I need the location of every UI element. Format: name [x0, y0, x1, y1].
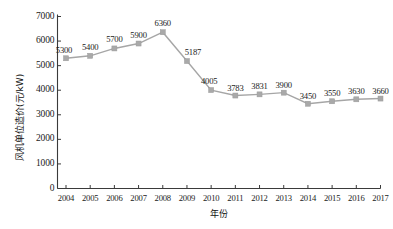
- data-point-marker: [354, 97, 359, 102]
- y-tick-label: 6000: [36, 35, 55, 45]
- y-axis-title: 风机单位造价(元/kW): [13, 73, 26, 160]
- data-point-marker: [233, 93, 238, 98]
- y-tick-label: 0: [50, 183, 55, 193]
- y-tick-label: 1000: [36, 158, 55, 168]
- data-point-marker: [184, 59, 189, 64]
- y-tick-label: 2000: [36, 133, 55, 143]
- data-point-marker: [88, 53, 93, 58]
- data-point-marker: [136, 41, 141, 46]
- data-point-marker: [281, 90, 286, 95]
- data-point-value-label: 5187: [179, 47, 207, 57]
- data-point-value-label: 6360: [149, 18, 177, 28]
- data-point-marker: [257, 92, 262, 97]
- x-axis-title: 年份: [179, 207, 259, 220]
- data-point-value-label: 3660: [367, 86, 393, 96]
- data-point-marker: [160, 30, 165, 35]
- data-point-marker: [330, 99, 335, 104]
- data-point-marker: [112, 46, 117, 51]
- data-point-marker: [64, 56, 69, 61]
- y-tick-label: 5000: [36, 60, 55, 70]
- data-point-value-label: 5900: [125, 30, 153, 40]
- data-point-marker: [378, 96, 383, 101]
- data-point-value-label: 5300: [50, 45, 78, 55]
- data-point-marker: [209, 88, 214, 93]
- wind-turbine-unit-cost-chart: 01000200030004000500060007000 2004200520…: [0, 0, 393, 229]
- data-point-marker: [305, 101, 310, 106]
- x-tick-label: 2017: [366, 193, 393, 203]
- y-tick-label: 3000: [36, 109, 55, 119]
- y-tick-label: 4000: [36, 84, 55, 94]
- data-point-value-label: 3900: [270, 80, 298, 90]
- y-tick-label: 7000: [36, 11, 55, 21]
- data-point-value-label: 4005: [195, 76, 223, 86]
